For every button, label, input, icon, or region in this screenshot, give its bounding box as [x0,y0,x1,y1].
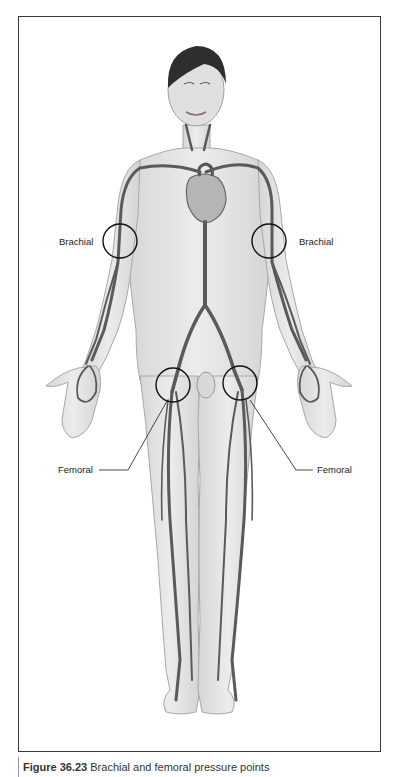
femoral-right-label: Femoral [317,464,352,475]
head [168,46,226,126]
caption-text: Brachial and femoral pressure points [87,761,269,773]
femoral-left-label: Femoral [58,464,93,475]
brachial-left-label: Brachial [59,236,93,247]
brachial-right-label: Brachial [299,236,333,247]
pelvis-detail [197,372,215,398]
caption-number: Figure 36.23 [23,761,87,773]
figure-caption: Figure 36.23 Brachial and femoral pressu… [18,757,269,777]
